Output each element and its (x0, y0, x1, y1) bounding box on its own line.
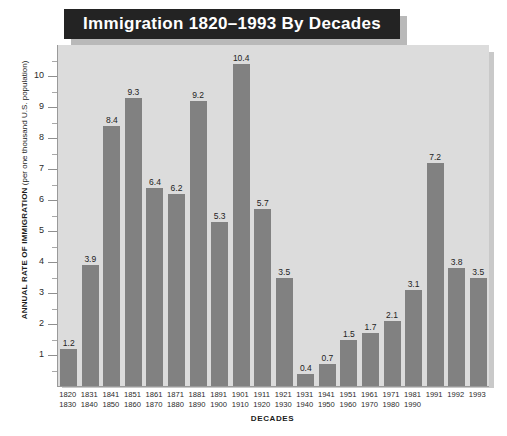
y-axis-minor-tick (0, 371, 57, 372)
bar-value-label: 0.4 (292, 363, 319, 373)
y-axis-title-bold: ANNUAL RATE OF IMMIGRATION (20, 187, 29, 319)
bar-value-label: 6.2 (163, 183, 190, 193)
bar (405, 290, 422, 386)
bar (319, 364, 336, 386)
bar-value-label: 0.7 (314, 353, 341, 363)
bar (125, 98, 142, 386)
y-axis-title: ANNUAL RATE OF IMMIGRATION (per one thou… (20, 20, 38, 360)
y-axis-tick-mark (48, 169, 57, 170)
bar-value-label: 1.2 (55, 338, 82, 348)
y-axis-tick-mark (48, 76, 57, 77)
bar (340, 340, 357, 387)
bar (448, 268, 465, 386)
y-axis-tick-mark (48, 293, 57, 294)
bar-value-label: 3.5 (271, 267, 298, 277)
bar (254, 209, 271, 386)
bar (297, 374, 314, 386)
bar (82, 265, 99, 386)
bar (233, 64, 250, 386)
y-axis-tick-mark (48, 107, 57, 108)
bar-value-label: 9.2 (185, 90, 212, 100)
y-axis-tick-mark (48, 138, 57, 139)
bar (211, 222, 228, 386)
y-axis-tick-mark (48, 355, 57, 356)
bar (470, 278, 487, 387)
bar-value-label: 3.5 (465, 267, 492, 277)
bar (384, 321, 401, 386)
bar (146, 188, 163, 386)
bar (103, 126, 120, 386)
bar (168, 194, 185, 386)
x-axis-labels: 1820183018311840184118501851186018611870… (57, 390, 488, 414)
bar-value-label: 9.3 (120, 87, 147, 97)
y-axis-tick-mark (48, 262, 57, 263)
x-axis-title: DECADES (57, 414, 488, 423)
bar (427, 163, 444, 386)
bar-value-label: 3.1 (400, 279, 427, 289)
bar (276, 278, 293, 387)
y-axis-tick-mark (48, 231, 57, 232)
y-axis-tick-mark (48, 200, 57, 201)
x-axis-tick-label: 1993 (464, 390, 491, 400)
x-axis-tick-label-line2: 1990 (399, 400, 426, 410)
bar-value-label: 1.7 (357, 322, 384, 332)
page-title: Immigration 1820–1993 By Decades (83, 14, 381, 34)
bar-value-label: 3.9 (77, 254, 104, 264)
x-axis-tick-label-line1: 1993 (464, 390, 491, 400)
bar (60, 349, 77, 386)
bar-value-label: 5.3 (206, 211, 233, 221)
y-axis-title-normal: (per one thousand U.S. population) (20, 61, 29, 188)
chart-title-banner: Immigration 1820–1993 By Decades (64, 9, 400, 39)
bars-container: 1.23.98.49.36.46.29.25.310.45.73.50.40.7… (58, 45, 489, 386)
bar-value-label: 8.4 (98, 115, 125, 125)
bar-value-label: 5.7 (249, 198, 276, 208)
bar-value-label: 10.4 (228, 53, 255, 63)
y-axis-tick-mark (48, 324, 57, 325)
bar-value-label: 7.2 (422, 152, 449, 162)
bar-value-label: 2.1 (379, 310, 406, 320)
bar (362, 333, 379, 386)
plot-area: 1.23.98.49.36.46.29.25.310.45.73.50.40.7… (57, 45, 489, 387)
bar (190, 101, 207, 386)
